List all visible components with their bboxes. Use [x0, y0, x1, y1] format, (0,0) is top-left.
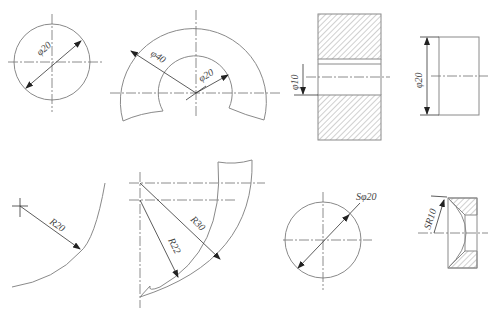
sphere-diameter-label: Sφ20: [356, 191, 377, 202]
view-sphere: Sφ20: [283, 191, 377, 290]
view-large-radius-arc: R20: [12, 183, 105, 287]
break-line-top: [218, 160, 252, 163]
break-line-right: [229, 108, 264, 120]
view-curved-band: R30 R22: [129, 160, 265, 308]
radius-leader: [20, 206, 80, 249]
outer-arc: [120, 29, 266, 121]
view-cylinder-side: φ20: [413, 37, 488, 115]
hatched-section-bottom: [318, 95, 381, 140]
break-line-left: [123, 111, 163, 121]
hatched-section-bottom: [448, 251, 477, 268]
inner-radius-label: R22: [166, 235, 184, 255]
view-circle-diameter: φ20: [8, 14, 102, 112]
view-hole-section: φ10: [289, 14, 390, 140]
hole-diameter-label: φ10: [289, 74, 300, 90]
drawing-canvas: φ20 φ40 φ20 φ10 φ20: [0, 0, 491, 318]
view-partial-ring: φ40 φ20: [110, 10, 282, 121]
inner-diameter-label: φ20: [197, 66, 216, 83]
cylinder-diameter-label: φ20: [413, 72, 424, 88]
diameter-label: φ20: [34, 39, 53, 57]
hatched-section-top: [318, 14, 381, 59]
outer-diameter-label: φ40: [149, 47, 168, 65]
view-spherical-seat: SR10: [418, 196, 488, 268]
radius-label: R20: [47, 215, 67, 234]
hatched-section-top: [448, 198, 477, 215]
outer-radius-label: R30: [188, 213, 208, 233]
inner-arc: [158, 56, 232, 111]
arc-outline: [12, 183, 105, 287]
diameter-leader: [298, 203, 360, 268]
inner-arc: [150, 162, 219, 289]
extension-line: [431, 196, 447, 197]
